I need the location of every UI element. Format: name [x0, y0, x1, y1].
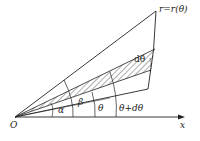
theta-plus-label: θ+dθ: [119, 104, 143, 113]
theta-label: θ: [98, 104, 103, 113]
origin-label: O: [10, 121, 17, 130]
curve-label: r=r(θ): [159, 5, 188, 14]
x-axis-label: x: [180, 121, 185, 130]
polar-area-diagram: r=r(θ) dθ α β θ θ+dθ O x: [0, 0, 200, 141]
dtheta-label: dθ: [134, 55, 145, 64]
arc-3: [92, 92, 95, 117]
diagram-canvas: [0, 0, 200, 141]
alpha-label: α: [58, 106, 64, 115]
x-axis-arrow-icon: [178, 115, 185, 120]
beta-label: β: [78, 98, 83, 107]
